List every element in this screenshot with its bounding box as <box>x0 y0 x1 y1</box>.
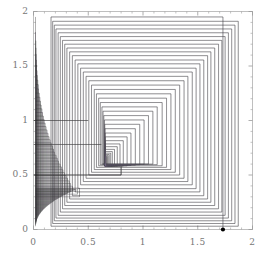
x-tick-label: 0 <box>14 237 54 247</box>
cobweb-polyline <box>51 17 238 230</box>
y-tick-label: 2 <box>22 6 28 16</box>
x-tick-label: 1 <box>123 237 163 247</box>
x-tick-label: 1.5 <box>178 237 218 247</box>
orbit-layer <box>34 17 239 230</box>
left-edge-cluster <box>36 17 80 226</box>
y-tick-label: 0 <box>22 224 28 234</box>
start-point-marker <box>221 227 225 231</box>
y-tick-label: 1 <box>22 115 28 125</box>
figure-root: 00.511.5200.511.52 <box>0 0 269 260</box>
y-tick-label: 1.5 <box>12 60 28 70</box>
y-tick-label: 0.5 <box>12 169 28 179</box>
cobweb-plot <box>0 0 269 260</box>
x-tick-label: 0.5 <box>68 237 108 247</box>
cobweb-fringe <box>51 17 238 230</box>
x-tick-label: 2 <box>233 237 270 247</box>
